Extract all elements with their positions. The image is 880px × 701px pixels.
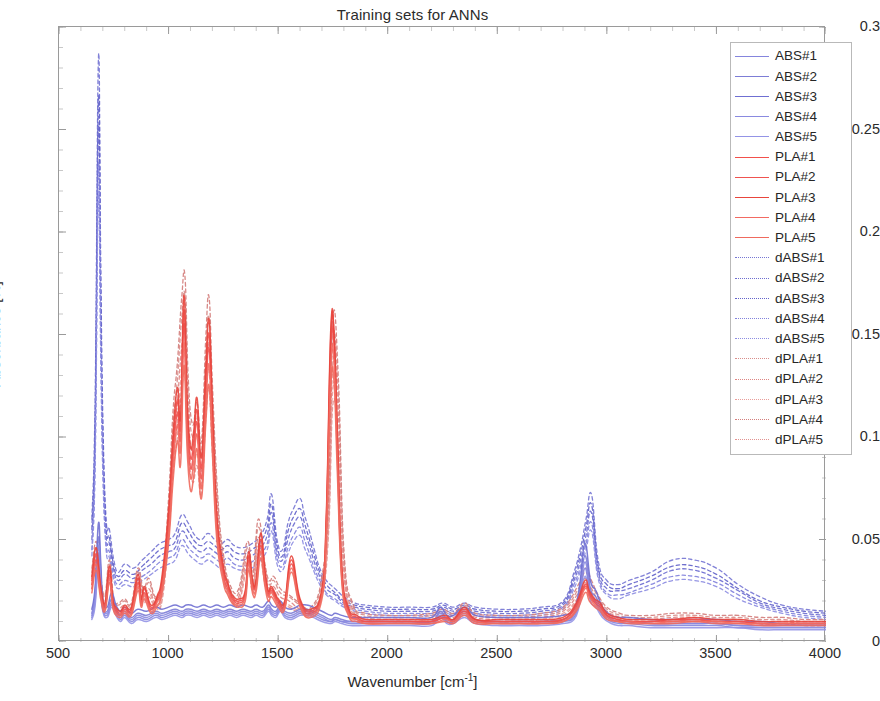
legend-line-swatch xyxy=(735,419,769,420)
legend-item[interactable]: dABS#4 xyxy=(735,308,846,328)
plot-area xyxy=(58,26,825,641)
legend-item[interactable]: dABS#1 xyxy=(735,248,846,268)
series-line xyxy=(92,125,826,615)
x-axis-label-tail: ] xyxy=(473,673,477,690)
legend-label: dABS#1 xyxy=(775,251,825,265)
series-line xyxy=(92,53,826,611)
legend-label: dPLA#5 xyxy=(775,433,823,447)
y-tick-label: 0.3 xyxy=(832,18,880,34)
legend-item[interactable]: PLA#2 xyxy=(735,167,846,187)
legend-line-swatch xyxy=(735,318,769,319)
legend-line-swatch xyxy=(735,237,769,238)
x-axis-label-base: Wavenumber [cm xyxy=(347,673,464,690)
x-tick-label: 2000 xyxy=(342,645,432,661)
legend-label: PLA#2 xyxy=(775,170,816,184)
legend-item[interactable]: PLA#1 xyxy=(735,147,846,167)
legend-line-swatch xyxy=(735,358,769,359)
legend-item[interactable]: ABS#3 xyxy=(735,86,846,106)
figure-root: { "chart_data": { "type": "line", "title… xyxy=(0,0,880,701)
y-tick-label: 0.05 xyxy=(832,531,880,547)
legend-line-swatch xyxy=(735,338,769,339)
legend-label: ABS#2 xyxy=(775,70,817,84)
x-tick-label: 4000 xyxy=(780,645,870,661)
legend-line-swatch xyxy=(735,157,769,158)
legend-label: PLA#3 xyxy=(775,191,816,205)
legend-line-swatch xyxy=(735,298,769,299)
legend-item[interactable]: dPLA#5 xyxy=(735,430,846,450)
legend-line-swatch xyxy=(735,197,769,198)
legend-line-swatch xyxy=(735,439,769,440)
legend-label: PLA#4 xyxy=(775,211,816,225)
legend-line-swatch xyxy=(735,116,769,117)
legend-label: dPLA#4 xyxy=(775,413,823,427)
x-tick-label: 1500 xyxy=(232,645,322,661)
legend-item[interactable]: dPLA#1 xyxy=(735,349,846,369)
legend-item[interactable]: dPLA#2 xyxy=(735,369,846,389)
legend-line-swatch xyxy=(735,257,769,258)
legend-label: ABS#3 xyxy=(775,90,817,104)
chart-legend[interactable]: ABS#1ABS#2ABS#3ABS#4ABS#5PLA#1PLA#2PLA#3… xyxy=(730,42,852,455)
legend-label: PLA#1 xyxy=(775,150,816,164)
legend-line-swatch xyxy=(735,399,769,400)
legend-line-swatch xyxy=(735,96,769,97)
x-tick-label: 500 xyxy=(13,645,103,661)
legend-label: ABS#4 xyxy=(775,110,817,124)
x-axis-label: Wavenumber [cm-1] xyxy=(0,672,825,690)
y-axis-label: Absorbance [%] xyxy=(0,281,3,387)
legend-label: ABS#5 xyxy=(775,130,817,144)
x-tick-label: 3500 xyxy=(670,645,760,661)
legend-label: ABS#1 xyxy=(775,49,817,63)
legend-line-swatch xyxy=(735,217,769,218)
spectra-plot xyxy=(59,27,826,642)
chart-title: Training sets for ANNs xyxy=(0,6,825,23)
legend-item[interactable]: dABS#5 xyxy=(735,329,846,349)
x-tick-label: 3000 xyxy=(561,645,651,661)
legend-label: dPLA#2 xyxy=(775,372,823,386)
legend-label: dPLA#1 xyxy=(775,352,823,366)
legend-line-swatch xyxy=(735,136,769,137)
legend-item[interactable]: PLA#4 xyxy=(735,208,846,228)
legend-item[interactable]: dABS#2 xyxy=(735,268,846,288)
series-line xyxy=(92,163,826,618)
legend-item[interactable]: ABS#1 xyxy=(735,46,846,66)
legend-label: dPLA#3 xyxy=(775,393,823,407)
legend-line-swatch xyxy=(735,177,769,178)
legend-line-swatch xyxy=(735,278,769,279)
legend-item[interactable]: dPLA#4 xyxy=(735,409,846,429)
legend-item[interactable]: ABS#5 xyxy=(735,127,846,147)
legend-item[interactable]: PLA#5 xyxy=(735,228,846,248)
legend-line-swatch xyxy=(735,56,769,57)
x-tick-label: 1000 xyxy=(123,645,213,661)
legend-line-swatch xyxy=(735,76,769,77)
series-line xyxy=(92,192,826,620)
legend-item[interactable]: dPLA#3 xyxy=(735,389,846,409)
x-tick-label: 2500 xyxy=(451,645,541,661)
series-line xyxy=(92,95,826,614)
legend-label: dABS#2 xyxy=(775,271,825,285)
legend-label: dABS#5 xyxy=(775,332,825,346)
legend-item[interactable]: ABS#2 xyxy=(735,66,846,86)
legend-item[interactable]: ABS#4 xyxy=(735,107,846,127)
legend-label: dABS#3 xyxy=(775,292,825,306)
legend-item[interactable]: PLA#3 xyxy=(735,187,846,207)
legend-line-swatch xyxy=(735,379,769,380)
legend-item[interactable]: dABS#3 xyxy=(735,288,846,308)
legend-label: dABS#4 xyxy=(775,312,825,326)
legend-label: PLA#5 xyxy=(775,231,816,245)
